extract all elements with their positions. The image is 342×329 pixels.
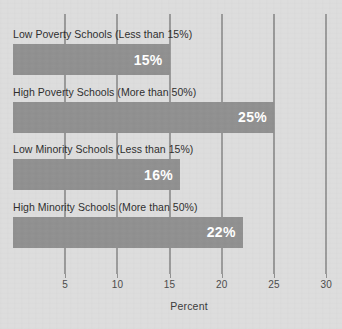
x-axis-title: Percent: [0, 300, 342, 312]
bar-category-label: High Poverty Schools (More than 50%): [13, 86, 196, 98]
bar: 22%: [13, 217, 243, 248]
x-axis-tick-label: 10: [102, 279, 132, 290]
x-axis-tick-mark: [117, 274, 118, 278]
gridline-30: [325, 14, 327, 274]
bar-category-label: Low Minority Schools (Less than 15%): [13, 143, 193, 155]
bar-category-label: High Minority Schools (More than 50%): [13, 201, 198, 213]
bar: 16%: [13, 159, 180, 190]
bar: 15%: [13, 44, 170, 75]
gridline-25: [273, 14, 275, 274]
x-axis-tick-label: 25: [259, 279, 289, 290]
bar-value-label: 25%: [238, 110, 267, 124]
x-axis-tick-label: 20: [207, 279, 237, 290]
bar-chart: 51015202530 Low Poverty Schools (Less th…: [0, 0, 342, 329]
bar: 25%: [13, 102, 274, 133]
plot-area: 51015202530 Low Poverty Schools (Less th…: [0, 0, 342, 329]
x-axis-tick-label: 30: [311, 279, 341, 290]
x-axis-tick-mark: [222, 274, 223, 278]
x-axis-tick-label: 5: [50, 279, 80, 290]
x-axis-tick-mark: [65, 274, 66, 278]
x-axis-tick-mark: [326, 274, 327, 278]
x-axis-tick-mark: [274, 274, 275, 278]
bar-value-label: 22%: [207, 225, 236, 239]
bar-value-label: 15%: [134, 53, 163, 67]
x-axis-tick-label: 15: [155, 279, 185, 290]
x-axis-tick-mark: [170, 274, 171, 278]
bar-value-label: 16%: [144, 168, 173, 182]
bar-category-label: Low Poverty Schools (Less than 15%): [13, 28, 192, 40]
